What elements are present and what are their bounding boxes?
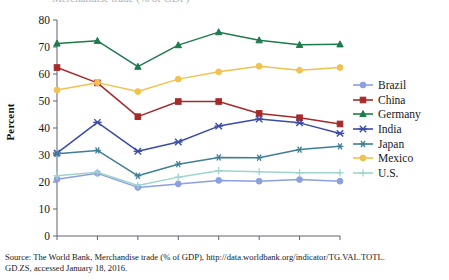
legend-swatch-square-icon	[352, 93, 374, 107]
data-point-marker	[360, 82, 366, 88]
legend-item-brazil[interactable]: Brazil	[352, 78, 447, 93]
legend-swatch-plus-icon	[352, 166, 374, 180]
y-tick-label: 0	[44, 230, 50, 240]
legend-swatch-x-bar-icon	[352, 122, 374, 136]
y-tick-label: 40	[39, 122, 51, 134]
data-point-marker	[174, 139, 182, 145]
source-note: Source: The World Bank, Merchandise trad…	[5, 252, 449, 273]
data-point-marker	[256, 178, 262, 184]
series-mexico	[54, 63, 343, 94]
legend-item-mexico[interactable]: Mexico	[352, 151, 447, 166]
y-tick-label: 10	[39, 203, 51, 215]
chart-legend: BrazilChinaGermanyIndiaJapanMexicoU.S.	[352, 78, 447, 180]
y-tick-label: 50	[39, 95, 51, 107]
data-point-marker	[297, 115, 303, 121]
data-point-marker	[360, 97, 366, 103]
y-tick-label: 60	[39, 68, 51, 80]
data-point-marker	[216, 29, 222, 35]
data-point-marker	[255, 116, 263, 122]
legend-label: Brazil	[378, 79, 406, 91]
data-point-marker	[360, 155, 366, 161]
data-point-marker	[359, 126, 367, 132]
data-point-marker	[337, 65, 343, 71]
source-line-1: Source: The World Bank, Merchandise trad…	[5, 252, 385, 262]
data-point-marker	[256, 168, 263, 175]
axes	[57, 20, 340, 236]
y-tick-label: 20	[39, 176, 51, 188]
legend-label: India	[378, 123, 402, 135]
legend-label: China	[378, 94, 405, 106]
data-point-marker	[256, 63, 262, 69]
series-germany	[54, 29, 343, 70]
data-point-marker	[175, 99, 181, 105]
data-point-marker	[296, 169, 303, 176]
data-point-marker	[337, 178, 343, 184]
data-point-marker	[297, 67, 303, 73]
legend-label: Mexico	[378, 152, 413, 164]
data-point-marker	[216, 99, 222, 105]
y-axis-ticks: 01020304050607080	[39, 14, 58, 240]
legend-label: Germany	[378, 108, 421, 120]
data-point-marker	[297, 177, 303, 183]
legend-item-china[interactable]: China	[352, 93, 447, 108]
data-point-marker	[54, 87, 60, 93]
legend-swatch-circle-icon	[352, 78, 374, 92]
data-point-marker	[336, 130, 344, 136]
legend-swatch-asterisk-icon	[352, 137, 374, 151]
data-point-marker	[256, 155, 263, 161]
legend-item-us[interactable]: U.S.	[352, 166, 447, 181]
data-point-marker	[216, 69, 222, 75]
data-point-marker	[256, 111, 262, 117]
data-point-marker	[93, 119, 101, 125]
source-line-2: GD.ZS, accessed January 18, 2016.	[5, 263, 449, 274]
data-point-marker	[95, 80, 101, 86]
legend-swatch-circle-icon	[352, 151, 374, 165]
legend-swatch-triangle-icon	[352, 107, 374, 121]
legend-label: Japan	[378, 138, 404, 150]
data-point-marker	[134, 148, 142, 154]
data-point-marker	[337, 121, 343, 127]
x-axis-ticks: 20072008200920102011201220132014	[46, 236, 352, 240]
legend-item-germany[interactable]: Germany	[352, 107, 447, 122]
legend-label: U.S.	[378, 167, 398, 179]
data-point-marker	[336, 169, 343, 176]
cut-off-title-text: Merchandise trade (% of GDP)	[52, 0, 189, 4]
legend-item-japan[interactable]: Japan	[352, 136, 447, 151]
y-axis-label: Percent	[4, 103, 16, 140]
data-point-marker	[175, 181, 181, 187]
data-point-marker	[175, 76, 181, 82]
data-point-marker	[215, 154, 222, 160]
figure-container: Merchandise trade (% of GDP) Percent 010…	[0, 0, 449, 280]
y-tick-label: 30	[39, 149, 51, 161]
data-point-marker	[54, 65, 60, 71]
data-point-marker	[359, 169, 366, 176]
data-point-marker	[337, 143, 344, 149]
data-point-marker	[175, 161, 182, 167]
data-point-marker	[215, 167, 222, 174]
data-point-marker	[296, 147, 303, 153]
y-tick-label: 70	[39, 41, 51, 53]
data-point-marker	[216, 177, 222, 183]
data-point-marker	[215, 123, 223, 129]
data-point-marker	[135, 114, 141, 120]
data-point-marker	[360, 141, 367, 147]
data-point-marker	[175, 174, 182, 181]
y-tick-label: 80	[39, 14, 51, 26]
legend-item-india[interactable]: India	[352, 122, 447, 137]
data-point-marker	[135, 89, 141, 95]
series-china	[54, 65, 343, 127]
